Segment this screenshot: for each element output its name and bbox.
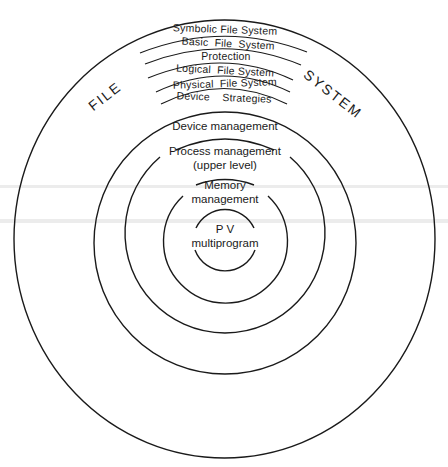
label-memory-management: management	[191, 193, 259, 205]
label-system: SYSTEM	[301, 66, 366, 121]
label-device-management: Device management	[172, 120, 278, 132]
label-process-upper-level: (upper level)	[193, 159, 257, 171]
band-protection: Protection	[201, 50, 250, 62]
label-multiprogram: multiprogram	[191, 237, 258, 249]
label-memory: Memory	[204, 179, 246, 191]
band-physical-file-system: Physical File System	[173, 75, 277, 91]
ring-memory-management	[163, 196, 287, 303]
ring-core-bottom	[195, 250, 255, 271]
label-pv: P V	[216, 223, 235, 235]
band-basic-file-system: Basic File System	[181, 35, 275, 52]
label-file: FILE	[85, 78, 124, 114]
label-process-management: Process management	[169, 145, 282, 157]
file-system-layer-diagram: FILE SYSTEM Symbolic File System Basic F…	[0, 0, 448, 467]
band-device-strategies: Device Strategies	[176, 89, 271, 104]
